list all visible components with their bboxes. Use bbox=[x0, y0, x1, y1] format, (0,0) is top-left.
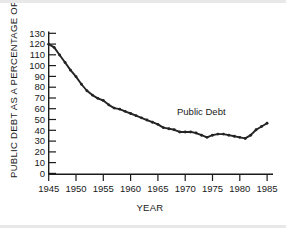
data-point bbox=[69, 69, 72, 72]
data-point bbox=[151, 121, 154, 124]
data-point bbox=[58, 54, 61, 57]
data-point bbox=[173, 128, 176, 131]
y-tick-label-40: 40 bbox=[34, 125, 45, 136]
data-point bbox=[47, 43, 50, 46]
x-tick-label-1980: 1980 bbox=[229, 183, 250, 194]
data-point bbox=[184, 130, 187, 133]
x-axis-tick-marks bbox=[49, 174, 267, 181]
x-tick-label-1960: 1960 bbox=[120, 183, 141, 194]
data-point bbox=[107, 103, 110, 106]
y-tick-label-90: 90 bbox=[34, 71, 45, 82]
data-point bbox=[195, 132, 198, 135]
data-point bbox=[260, 125, 263, 128]
data-point bbox=[64, 61, 67, 64]
y-tick-label-110: 110 bbox=[30, 49, 45, 60]
y-axis-title: PUBLIC DEBT AS A PERCENTAGE OF GNP bbox=[8, 0, 19, 178]
plot-series-group bbox=[47, 43, 268, 140]
data-point bbox=[206, 136, 209, 139]
y-tick-label-10: 10 bbox=[34, 157, 45, 168]
data-point bbox=[266, 122, 269, 125]
public-debt-points bbox=[47, 43, 268, 140]
data-point bbox=[124, 110, 127, 113]
data-point bbox=[167, 127, 170, 130]
data-point bbox=[211, 134, 214, 137]
y-tick-label-70: 70 bbox=[34, 92, 45, 103]
data-point bbox=[75, 75, 78, 78]
data-point bbox=[80, 83, 83, 86]
data-point bbox=[249, 134, 252, 137]
y-axis-tick-labels: 130 120 110 100 90 80 70 60 50 40 30 20 … bbox=[29, 28, 45, 179]
data-point bbox=[200, 134, 203, 137]
x-tick-label-1965: 1965 bbox=[147, 183, 168, 194]
y-axis-title-group: PUBLIC DEBT AS A PERCENTAGE OF GNP bbox=[8, 0, 19, 178]
x-tick-label-1945: 1945 bbox=[38, 183, 59, 194]
chart-figure: PUBLIC DEBT AS A PERCENTAGE OF GNP 130 1… bbox=[0, 0, 286, 228]
data-point bbox=[140, 116, 143, 119]
data-point bbox=[178, 130, 181, 133]
data-point bbox=[189, 130, 192, 133]
data-point bbox=[85, 89, 88, 92]
y-tick-label-20: 20 bbox=[34, 146, 45, 157]
data-point bbox=[129, 112, 132, 115]
data-point bbox=[162, 126, 165, 129]
data-point bbox=[146, 119, 149, 122]
x-tick-label-1950: 1950 bbox=[65, 183, 86, 194]
top-divider bbox=[0, 0, 286, 3]
y-tick-label-30: 30 bbox=[34, 135, 45, 146]
y-tick-label-100: 100 bbox=[29, 60, 45, 71]
y-tick-label-60: 60 bbox=[34, 103, 45, 114]
data-point bbox=[156, 123, 159, 126]
y-tick-label-130: 130 bbox=[29, 28, 45, 39]
data-point bbox=[53, 46, 56, 49]
x-tick-label-1955: 1955 bbox=[93, 183, 114, 194]
data-point bbox=[244, 137, 247, 140]
data-point bbox=[255, 128, 258, 131]
y-tick-label-120: 120 bbox=[29, 38, 45, 49]
data-point bbox=[96, 97, 99, 100]
data-point bbox=[118, 108, 121, 111]
public-debt-line-chart: PUBLIC DEBT AS A PERCENTAGE OF GNP 130 1… bbox=[0, 0, 286, 228]
y-tick-label-0: 0 bbox=[40, 168, 45, 179]
data-point bbox=[113, 107, 116, 110]
data-point bbox=[91, 94, 94, 97]
data-point bbox=[233, 135, 236, 138]
x-axis-tick-labels: 1945 1950 1955 1960 1965 1970 1975 1980 … bbox=[38, 183, 278, 194]
data-point bbox=[102, 99, 105, 102]
x-tick-label-1970: 1970 bbox=[175, 183, 196, 194]
data-point bbox=[135, 114, 138, 117]
data-point bbox=[238, 136, 241, 139]
y-tick-label-50: 50 bbox=[34, 114, 45, 125]
bottom-divider bbox=[0, 225, 286, 228]
x-tick-label-1975: 1975 bbox=[202, 183, 223, 194]
x-tick-label-1985: 1985 bbox=[257, 183, 278, 194]
y-tick-label-80: 80 bbox=[34, 81, 45, 92]
data-point bbox=[222, 133, 225, 136]
data-point bbox=[216, 133, 219, 136]
x-axis-title: YEAR bbox=[136, 202, 163, 213]
data-point bbox=[227, 134, 230, 137]
series-annotation-public-debt: Public Debt bbox=[177, 106, 226, 117]
